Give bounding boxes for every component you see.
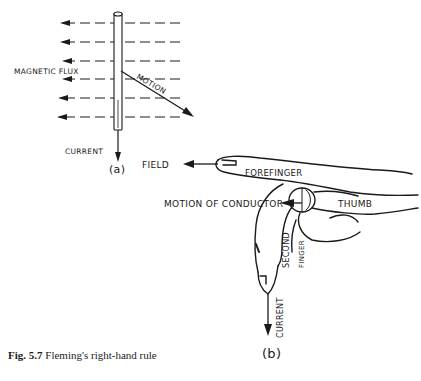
forefinger-label: FOREFINGER	[245, 168, 302, 178]
flemings-right-hand-rule-diagram: MAGNETIC FLUX MOTION CURRENT (a)	[0, 0, 421, 381]
motion-of-conductor-label: MOTION OF CONDUCTOR	[164, 199, 283, 209]
current-label-b: CURRENT	[276, 297, 285, 338]
current-label-a: CURRENT	[65, 147, 103, 156]
field-arrow	[183, 160, 218, 168]
current-arrow-b	[264, 294, 272, 336]
panel-a: MAGNETIC FLUX MOTION CURRENT (a)	[14, 12, 194, 176]
figure-title: Fleming's right-hand rule	[45, 349, 156, 361]
figure-number: Fig. 5.7	[8, 349, 43, 361]
field-label: FIELD	[142, 160, 169, 170]
motion-arrow-a	[121, 71, 194, 117]
motion-label: MOTION	[135, 72, 168, 96]
magnetic-flux-label: MAGNETIC FLUX	[14, 67, 79, 76]
figure-caption: Fig. 5.7 Fleming's right-hand rule	[8, 349, 157, 361]
panel-a-label: (a)	[109, 163, 125, 176]
conductor-rod	[114, 12, 122, 130]
panel-b-label: (b)	[262, 346, 281, 361]
second-label: SECOND	[282, 232, 291, 268]
finger-label: FINGER	[298, 240, 306, 268]
thumb-label: THUMB	[337, 199, 372, 209]
panel-b: FIELD FOREFINGER MOTION OF CONDUCTOR THU…	[142, 156, 418, 361]
current-arrow-a	[115, 130, 121, 162]
